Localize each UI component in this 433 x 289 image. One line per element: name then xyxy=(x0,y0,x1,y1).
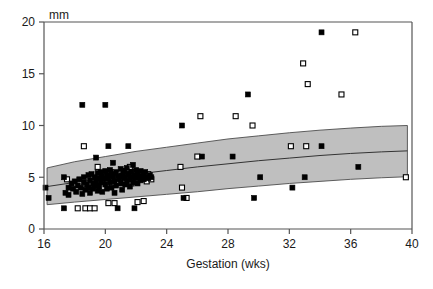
data-point-filled xyxy=(130,162,135,167)
data-point-filled xyxy=(115,206,120,211)
data-point-open xyxy=(305,82,310,87)
data-point-filled xyxy=(77,177,82,182)
data-point-open xyxy=(180,185,185,190)
data-point-filled xyxy=(114,183,119,188)
data-point-filled xyxy=(74,189,79,194)
data-point-filled xyxy=(104,186,109,191)
scatter-plot-svg: 05101520 16202428323640 mm Gestation (wk… xyxy=(0,0,433,289)
x-axis-tick-labels: 16202428323640 xyxy=(37,237,419,251)
data-point-open xyxy=(92,206,97,211)
data-point-filled xyxy=(46,195,51,200)
y-tick-label: 10 xyxy=(22,119,36,133)
data-point-filled xyxy=(230,154,235,159)
data-point-filled xyxy=(302,175,307,180)
x-axis-title: Gestation (wks) xyxy=(186,257,269,271)
data-point-filled xyxy=(94,155,99,160)
data-point-filled xyxy=(100,189,105,194)
y-tick-label: 20 xyxy=(22,15,36,29)
data-point-open xyxy=(135,200,140,205)
y-tick-label: 5 xyxy=(28,171,35,185)
data-point-open xyxy=(304,144,309,149)
data-point-open xyxy=(195,154,200,159)
data-point-filled xyxy=(61,175,66,180)
data-point-filled xyxy=(111,160,116,165)
x-tick-label: 40 xyxy=(405,237,419,251)
chart-figure: 05101520 16202428323640 mm Gestation (wk… xyxy=(0,0,433,289)
x-axis-ticks xyxy=(44,229,412,234)
data-point-filled xyxy=(143,170,148,175)
data-point-filled xyxy=(319,30,324,35)
data-point-filled xyxy=(199,154,204,159)
data-point-open xyxy=(353,30,358,35)
data-point-filled xyxy=(252,195,257,200)
data-point-open xyxy=(141,199,146,204)
data-point-filled xyxy=(118,181,123,186)
data-point-filled xyxy=(86,185,91,190)
data-point-open xyxy=(403,175,408,180)
x-tick-label: 20 xyxy=(99,237,113,251)
data-point-filled xyxy=(78,185,83,190)
data-point-open xyxy=(288,144,293,149)
data-point-open xyxy=(81,144,86,149)
data-point-open xyxy=(250,123,255,128)
y-axis-unit-label: mm xyxy=(49,8,69,22)
data-point-filled xyxy=(258,175,263,180)
data-point-open xyxy=(339,92,344,97)
data-point-filled xyxy=(61,206,66,211)
x-tick-label: 32 xyxy=(283,237,297,251)
data-point-filled xyxy=(106,144,111,149)
y-axis-ticks xyxy=(39,22,44,229)
x-tick-label: 36 xyxy=(344,237,358,251)
data-point-open xyxy=(106,201,111,206)
data-point-filled xyxy=(103,102,108,107)
data-point-filled xyxy=(356,164,361,169)
data-point-filled xyxy=(126,144,131,149)
data-point-filled xyxy=(124,165,129,170)
data-point-filled xyxy=(180,123,185,128)
data-point-open xyxy=(301,61,306,66)
y-axis-tick-labels: 05101520 xyxy=(22,15,36,236)
data-point-filled xyxy=(245,92,250,97)
data-point-filled xyxy=(319,144,324,149)
data-point-open xyxy=(178,164,183,169)
data-point-filled xyxy=(107,180,112,185)
data-point-filled xyxy=(181,195,186,200)
data-point-open xyxy=(198,114,203,119)
data-point-open xyxy=(112,201,117,206)
x-tick-label: 24 xyxy=(160,237,174,251)
data-point-open xyxy=(75,206,80,211)
data-point-filled xyxy=(109,185,114,190)
x-tick-label: 16 xyxy=(37,237,51,251)
data-point-filled xyxy=(132,206,137,211)
y-tick-label: 0 xyxy=(28,222,35,236)
data-point-filled xyxy=(112,190,117,195)
data-point-filled xyxy=(120,187,125,192)
data-point-filled xyxy=(81,175,86,180)
x-tick-label: 28 xyxy=(221,237,235,251)
data-point-filled xyxy=(80,102,85,107)
data-point-filled xyxy=(290,185,295,190)
data-point-filled xyxy=(149,175,154,180)
y-tick-label: 15 xyxy=(22,67,36,81)
data-point-open xyxy=(95,164,100,169)
data-point-open xyxy=(233,114,238,119)
data-point-filled xyxy=(66,192,71,197)
